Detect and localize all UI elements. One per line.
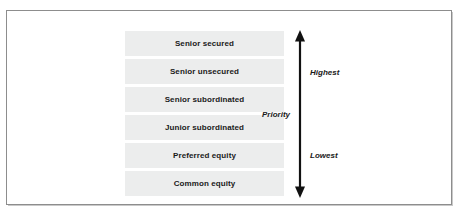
tranche-bar: Senior unsecured [125,59,284,84]
priority-arrow-group: Highest Lowest Priority [262,29,382,199]
tranche-label: Junior subordinated [165,124,244,132]
priority-highest-label: Highest [310,69,339,77]
tranche-label: Common equity [174,180,236,188]
capital-structure-stack: Senior securedSenior unsecuredSenior sub… [125,31,284,196]
tranche-bar: Senior subordinated [125,87,284,112]
tranche-label: Senior unsecured [170,68,239,76]
seniority-priority-diagram: Senior securedSenior unsecuredSenior sub… [0,0,466,217]
tranche-label: Senior secured [175,40,234,48]
priority-lowest-label: Lowest [310,152,338,160]
tranche-bar: Senior secured [125,31,284,56]
tranche-label: Preferred equity [173,152,236,160]
tranche-bar: Preferred equity [125,143,284,168]
tranche-bar: Junior subordinated [125,115,284,140]
tranche-bar: Common equity [125,171,284,196]
double-headed-vertical-arrow-icon [292,29,308,199]
diagram-frame: Senior securedSenior unsecuredSenior sub… [6,10,452,205]
priority-axis-label: Priority [262,111,290,119]
tranche-label: Senior subordinated [165,96,245,104]
